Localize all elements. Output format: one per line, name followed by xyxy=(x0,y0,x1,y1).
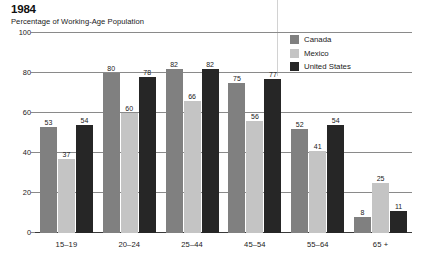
bar-value-label: 56 xyxy=(251,113,259,120)
bar-groups: 53375480607882668275567752415482511 xyxy=(35,33,412,233)
bar-value-label: 78 xyxy=(143,69,151,76)
bar-value-label: 41 xyxy=(314,143,322,150)
legend-label: United States xyxy=(304,62,351,71)
legend-item: Mexico xyxy=(290,47,351,61)
bar: 11 xyxy=(390,211,407,233)
y-axis-tick-label: 40 xyxy=(23,148,31,157)
x-axis-label: 15–19 xyxy=(35,240,98,249)
chart-page: 1984 Percentage of Working-Age Populatio… xyxy=(0,0,421,260)
bar: 77 xyxy=(264,79,281,233)
bar-value-label: 60 xyxy=(125,105,133,112)
bar-group: 82511 xyxy=(349,33,412,233)
y-axis-tick-label: 100 xyxy=(19,28,31,37)
bar: 78 xyxy=(139,77,156,233)
y-axis-tick-label: 20 xyxy=(23,188,31,197)
bar-value-label: 11 xyxy=(395,203,402,210)
x-axis-label: 55–64 xyxy=(286,240,349,249)
bar-value-label: 54 xyxy=(332,117,340,124)
bar: 82 xyxy=(202,69,219,233)
bar: 54 xyxy=(76,125,93,233)
bar-group: 755677 xyxy=(223,33,286,233)
bar-value-label: 66 xyxy=(188,93,196,100)
page-title: 1984 xyxy=(11,3,36,15)
plot-area: 020406080100 533754806078826682755677524… xyxy=(35,33,412,233)
bar: 54 xyxy=(327,125,344,233)
bar-group: 806078 xyxy=(98,33,161,233)
bar-value-label: 54 xyxy=(81,117,89,124)
legend-swatch xyxy=(290,35,299,44)
bar: 60 xyxy=(121,113,138,233)
bar-value-label: 80 xyxy=(107,65,115,72)
bar-value-label: 52 xyxy=(296,121,304,128)
legend-item: United States xyxy=(290,60,351,74)
y-axis-tick-label: 80 xyxy=(23,68,31,77)
bar: 56 xyxy=(246,121,263,233)
bar: 82 xyxy=(166,69,183,233)
bar-group: 826682 xyxy=(161,33,224,233)
bar-value-label: 53 xyxy=(45,119,53,126)
bar: 52 xyxy=(291,129,308,233)
x-axis-label: 65 + xyxy=(349,240,412,249)
bar-value-label: 8 xyxy=(361,209,365,216)
bar-group: 533754 xyxy=(35,33,98,233)
bar: 25 xyxy=(372,183,389,233)
x-axis-label: 45–54 xyxy=(223,240,286,249)
legend-swatch xyxy=(290,62,299,71)
bar-value-label: 37 xyxy=(63,151,71,158)
bar: 41 xyxy=(309,151,326,233)
legend-label: Canada xyxy=(304,35,331,44)
legend-label: Mexico xyxy=(304,49,329,58)
legend-item: Canada xyxy=(290,33,351,47)
x-axis-label: 20–24 xyxy=(98,240,161,249)
bar-value-label: 77 xyxy=(269,71,277,78)
bar: 37 xyxy=(58,159,75,233)
legend-swatch xyxy=(290,49,299,58)
bar-value-label: 82 xyxy=(170,61,178,68)
bar: 80 xyxy=(103,73,120,233)
bar: 53 xyxy=(40,127,57,233)
bar: 8 xyxy=(354,217,371,233)
chart-subtitle: Percentage of Working-Age Population xyxy=(11,17,144,26)
chart-legend: CanadaMexicoUnited States xyxy=(290,33,351,74)
bar: 75 xyxy=(228,83,245,233)
x-axis-label: 25–44 xyxy=(161,240,224,249)
bar-value-label: 82 xyxy=(206,61,214,68)
bar-value-label: 25 xyxy=(377,175,385,182)
bar-value-label: 75 xyxy=(233,75,241,82)
bar: 66 xyxy=(184,101,201,233)
x-axis-labels: 15–1920–2425–4445–5455–6465 + xyxy=(35,240,412,249)
y-axis-tick-label: 60 xyxy=(23,108,31,117)
